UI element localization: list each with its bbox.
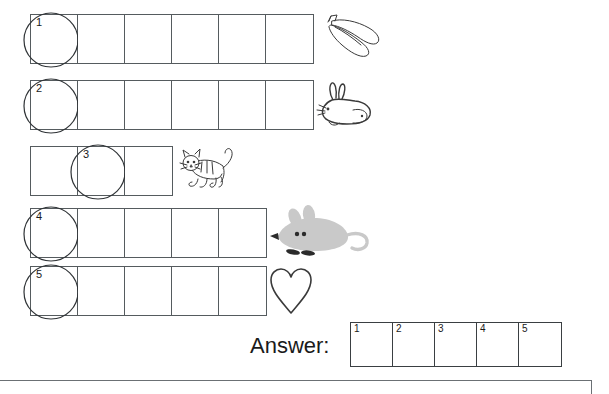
banana-icon <box>315 14 387 64</box>
letter-cell[interactable]: 4 <box>31 209 78 257</box>
letter-cell[interactable] <box>125 147 172 195</box>
letter-cell[interactable] <box>78 81 125 129</box>
circle-marker-icon <box>22 77 80 135</box>
circle-marker-icon <box>22 205 80 263</box>
letter-cell[interactable] <box>219 209 266 257</box>
circle-marker-icon <box>22 11 80 69</box>
answer-cell-number-label: 3 <box>438 323 444 335</box>
cell-number-label: 2 <box>36 82 42 95</box>
answer-cell[interactable]: 4 <box>477 323 519 366</box>
letter-cell[interactable] <box>266 81 313 129</box>
letter-cell[interactable] <box>31 147 78 195</box>
letter-cell[interactable] <box>78 267 125 315</box>
cell-number-label: 3 <box>83 148 89 161</box>
letter-cell[interactable]: 2 <box>31 81 78 129</box>
letter-cell[interactable] <box>172 81 219 129</box>
answer-cell[interactable]: 5 <box>519 323 561 366</box>
answer-cell[interactable]: 2 <box>393 323 435 366</box>
rabbit-icon <box>315 80 377 130</box>
answer-cell-number-label: 2 <box>396 323 402 335</box>
letter-cell[interactable] <box>219 81 266 129</box>
answer-label: Answer: <box>250 333 329 359</box>
letter-cell[interactable] <box>172 15 219 63</box>
answer-cell[interactable]: 1 <box>351 323 393 366</box>
cat-icon <box>178 146 240 196</box>
letter-grid-row-4: 4 <box>30 208 267 258</box>
letter-cell[interactable] <box>125 267 172 315</box>
letter-cell[interactable]: 5 <box>31 267 78 315</box>
letter-grid-row-3: 3 <box>30 146 173 196</box>
letter-cell[interactable] <box>125 15 172 63</box>
circle-marker-icon <box>22 263 80 321</box>
letter-cell[interactable] <box>219 15 266 63</box>
circle-marker-icon <box>69 143 127 201</box>
cell-number-label: 4 <box>36 210 42 223</box>
letter-cell[interactable] <box>125 81 172 129</box>
letter-cell[interactable] <box>78 209 125 257</box>
letter-cell[interactable] <box>219 267 266 315</box>
letter-cell[interactable] <box>125 209 172 257</box>
letter-grid-row-2: 2 <box>30 80 314 130</box>
answer-area: Answer: 12345 <box>250 320 570 375</box>
answer-cell-number-label: 5 <box>522 323 528 335</box>
letter-grid-row-1: 1 <box>30 14 314 64</box>
cell-number-label: 5 <box>36 268 42 281</box>
letter-grid-row-5: 5 <box>30 266 267 316</box>
letter-cell[interactable]: 3 <box>78 147 125 195</box>
letter-cell[interactable] <box>172 267 219 315</box>
heart-icon <box>268 266 314 316</box>
answer-cell-number-label: 1 <box>354 323 360 335</box>
letter-cell[interactable]: 1 <box>31 15 78 63</box>
mouse-icon <box>268 208 372 258</box>
answer-cell-number-label: 4 <box>480 323 486 335</box>
cell-number-label: 1 <box>36 16 42 29</box>
bottom-rule-divider <box>0 380 592 394</box>
answer-grid: 12345 <box>350 322 562 367</box>
letter-cell[interactable] <box>78 15 125 63</box>
letter-cell[interactable] <box>266 15 313 63</box>
letter-cell[interactable] <box>172 209 219 257</box>
answer-cell[interactable]: 3 <box>435 323 477 366</box>
